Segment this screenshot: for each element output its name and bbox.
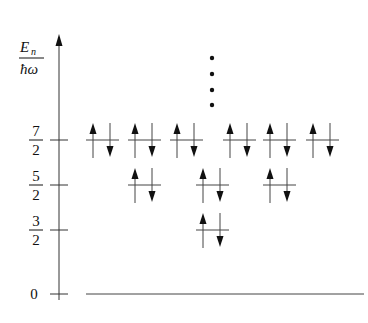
y-tick: 72 — [29, 123, 68, 158]
spin-down-arrow-icon — [327, 146, 334, 157]
spin-pair — [306, 123, 339, 158]
spin-up-arrow-icon — [310, 123, 317, 134]
spin-pair — [223, 123, 256, 158]
y-label-subscript: n — [31, 46, 36, 57]
energy-level-diagram: E n ħω 7252320 — [0, 0, 368, 323]
y-label-numerator: E — [19, 39, 29, 55]
tick-denominator: 2 — [32, 142, 40, 158]
spin-up-arrow-icon — [227, 123, 234, 134]
y-axis-ticks: 7252320 — [29, 123, 68, 302]
tick-numerator: 7 — [32, 123, 40, 139]
spin-up-arrow-icon — [132, 168, 139, 179]
tick-denominator: 2 — [32, 187, 40, 203]
spin-up-arrow-icon — [200, 213, 207, 224]
spin-down-arrow-icon — [191, 146, 198, 157]
spin-down-arrow-icon — [107, 146, 114, 157]
y-tick: 0 — [30, 286, 68, 302]
tick-label: 0 — [30, 286, 38, 302]
ellipsis-dot-icon — [210, 56, 214, 60]
spin-down-arrow-icon — [217, 236, 224, 247]
y-axis — [56, 34, 63, 300]
spin-pair — [128, 123, 161, 158]
tick-numerator: 5 — [32, 168, 40, 184]
spin-up-arrow-icon — [132, 123, 139, 134]
spin-up-arrow-icon — [267, 168, 274, 179]
spin-down-arrow-icon — [149, 191, 156, 202]
axis-arrow-icon — [56, 34, 63, 46]
y-label-denominator: ħω — [20, 61, 38, 77]
spin-pair — [86, 123, 119, 158]
spin-up-arrow-icon — [174, 123, 181, 134]
spin-pair — [263, 123, 296, 158]
y-tick: 32 — [29, 213, 68, 248]
spin-down-arrow-icon — [284, 191, 291, 202]
spin-down-arrow-icon — [284, 146, 291, 157]
spin-up-arrow-icon — [267, 123, 274, 134]
spin-down-arrow-icon — [217, 191, 224, 202]
tick-numerator: 3 — [32, 213, 40, 229]
spin-pair — [263, 168, 296, 203]
tick-denominator: 2 — [32, 232, 40, 248]
ellipsis-dot-icon — [210, 72, 214, 76]
continuation-dots — [210, 56, 214, 107]
spin-down-arrow-icon — [149, 146, 156, 157]
y-tick: 52 — [29, 168, 68, 203]
spin-pair — [196, 168, 229, 203]
y-axis-label: E n ħω — [19, 39, 44, 77]
spin-pair — [196, 213, 229, 248]
spin-pair — [128, 168, 161, 203]
energy-levels — [86, 123, 339, 248]
spin-down-arrow-icon — [244, 146, 251, 157]
ellipsis-dot-icon — [210, 103, 214, 107]
spin-pair — [170, 123, 203, 158]
ellipsis-dot-icon — [210, 88, 214, 92]
spin-up-arrow-icon — [90, 123, 97, 134]
spin-up-arrow-icon — [200, 168, 207, 179]
